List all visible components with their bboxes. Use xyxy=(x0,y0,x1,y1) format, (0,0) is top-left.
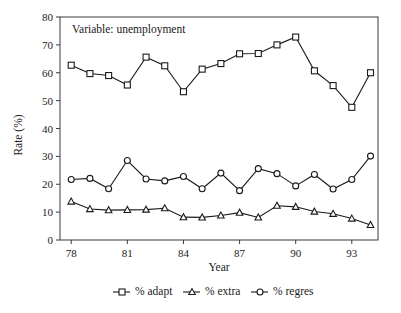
data-point-marker xyxy=(349,177,355,183)
data-point-marker xyxy=(274,171,280,177)
data-point-marker xyxy=(293,183,299,189)
data-point-marker xyxy=(218,61,224,67)
x-tick-label: 87 xyxy=(234,247,246,259)
data-point-marker xyxy=(68,177,74,183)
y-axis-ticks: 01020304050607080 xyxy=(42,11,60,246)
data-point-marker xyxy=(124,158,130,164)
data-point-marker xyxy=(143,54,149,60)
data-point-marker xyxy=(368,70,374,76)
variable-annotation: Variable: unemployment xyxy=(72,23,186,36)
data-point-marker xyxy=(162,63,168,69)
plot-frame xyxy=(60,17,378,240)
data-point-marker xyxy=(311,171,317,177)
y-tick-label: 70 xyxy=(42,39,54,51)
data-point-marker xyxy=(257,289,263,295)
data-point-marker xyxy=(237,51,243,57)
legend-item-extra[interactable]: % extra xyxy=(183,285,240,297)
y-tick-label: 10 xyxy=(42,206,54,218)
y-tick-label: 40 xyxy=(42,123,54,135)
chart-legend: % adapt% extra% regres xyxy=(113,285,314,298)
y-tick-label: 0 xyxy=(48,234,54,246)
data-point-marker xyxy=(237,188,243,194)
legend-label: % regres xyxy=(273,285,314,298)
data-point-marker xyxy=(236,209,243,215)
data-point-marker xyxy=(180,173,186,179)
x-tick-label: 90 xyxy=(290,247,302,259)
data-point-marker xyxy=(161,205,168,211)
data-point-marker xyxy=(311,68,317,74)
data-point-marker xyxy=(87,71,93,77)
y-axis-title: Rate (%) xyxy=(12,114,25,155)
legend-item-adapt[interactable]: % adapt xyxy=(113,285,173,298)
x-tick-label: 93 xyxy=(346,247,358,259)
x-tick-label: 84 xyxy=(178,247,190,259)
data-point-marker xyxy=(199,66,205,72)
line-chart: 01020304050607080 788184879093 Variable:… xyxy=(0,0,401,313)
y-tick-label: 60 xyxy=(42,67,54,79)
series-regres xyxy=(68,153,373,194)
y-tick-label: 20 xyxy=(42,178,54,190)
data-point-marker xyxy=(180,89,186,95)
data-point-marker xyxy=(218,170,224,176)
series-extra xyxy=(68,198,374,227)
data-point-marker xyxy=(330,186,336,192)
legend-label: % extra xyxy=(205,285,240,297)
data-point-marker xyxy=(68,198,75,204)
data-point-marker xyxy=(87,175,93,181)
x-tick-label: 81 xyxy=(122,247,133,259)
y-tick-label: 30 xyxy=(42,150,54,162)
data-point-marker xyxy=(199,186,205,192)
x-tick-label: 78 xyxy=(66,247,78,259)
data-point-marker xyxy=(330,83,336,89)
data-point-marker xyxy=(68,62,74,68)
series-adapt xyxy=(68,34,373,110)
chart-figure: 01020304050607080 788184879093 Variable:… xyxy=(0,0,401,313)
legend-label: % adapt xyxy=(135,285,173,298)
data-point-marker xyxy=(124,82,130,88)
data-point-marker xyxy=(255,166,261,172)
data-point-marker xyxy=(255,51,261,57)
data-point-marker xyxy=(119,289,125,295)
y-tick-label: 50 xyxy=(42,95,54,107)
data-point-marker xyxy=(368,153,374,159)
x-axis-title: Year xyxy=(208,261,229,273)
data-point-marker xyxy=(349,104,355,110)
y-tick-label: 80 xyxy=(42,11,54,23)
x-axis-ticks: 788184879093 xyxy=(66,240,358,259)
data-point-marker xyxy=(106,73,112,79)
data-point-marker xyxy=(162,178,168,184)
data-point-marker xyxy=(274,202,281,208)
data-point-marker xyxy=(293,34,299,40)
data-point-marker xyxy=(143,176,149,182)
series-line xyxy=(71,37,370,107)
legend-item-regres[interactable]: % regres xyxy=(251,285,314,298)
series-layer xyxy=(68,34,374,227)
data-point-marker xyxy=(106,186,112,192)
data-point-marker xyxy=(274,42,280,48)
